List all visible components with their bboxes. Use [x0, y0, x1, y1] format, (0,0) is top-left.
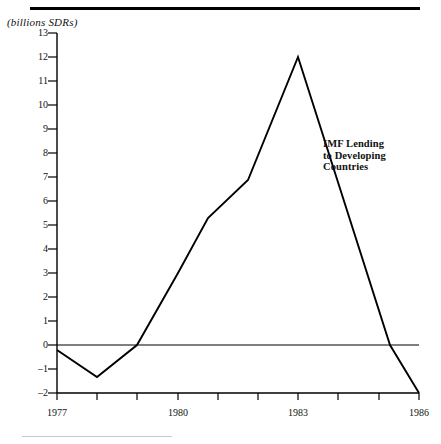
x-tick-label-1986: 1986: [399, 408, 439, 418]
series-line-imf-lending: [57, 57, 419, 393]
bottom-divider-rule: [22, 436, 172, 437]
y-tick-label-9: 9: [22, 124, 48, 134]
series-annotation-line-2: to Developing: [323, 150, 386, 162]
y-tick-label-2: 2: [22, 292, 48, 302]
y-tick-label-neg1: –1: [22, 364, 48, 374]
y-tick-label-5: 5: [22, 220, 48, 230]
x-tick-label-1977: 1977: [37, 408, 77, 418]
y-tick-label-11: 11: [22, 76, 48, 86]
y-tick-marks: [48, 33, 57, 393]
y-tick-label-neg2: –2: [22, 388, 48, 398]
x-tick-label-1983: 1983: [278, 408, 318, 418]
series-annotation-line-1: IMF Lending: [323, 138, 386, 150]
x-tick-label-1980: 1980: [158, 408, 198, 418]
chart-figure: (billions SDRs): [0, 0, 441, 444]
y-tick-label-8: 8: [22, 148, 48, 158]
y-tick-label-0: 0: [22, 340, 48, 350]
y-tick-label-4: 4: [22, 244, 48, 254]
line-chart-plot: [0, 0, 441, 444]
y-tick-label-6: 6: [22, 196, 48, 206]
series-annotation-imf-lending: IMF Lending to Developing Countries: [323, 138, 386, 173]
y-tick-label-3: 3: [22, 268, 48, 278]
y-tick-label-12: 12: [22, 52, 48, 62]
x-tick-marks: [57, 393, 419, 400]
y-tick-label-1: 1: [22, 316, 48, 326]
y-tick-label-13: 13: [22, 28, 48, 38]
series-annotation-line-3: Countries: [323, 161, 386, 173]
y-tick-label-10: 10: [22, 100, 48, 110]
y-tick-label-7: 7: [22, 172, 48, 182]
